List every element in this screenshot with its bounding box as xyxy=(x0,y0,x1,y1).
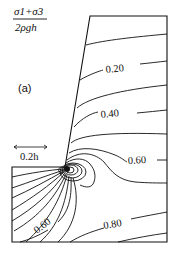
domain-outline xyxy=(12,16,167,242)
scale-bar-label: 0.2h xyxy=(20,151,39,162)
quantity-label: σ1+σ3 2ρgh xyxy=(13,5,47,33)
contour-label-0-40: 0.40 xyxy=(100,107,119,120)
fraction-denominator: 2ρgh xyxy=(15,21,37,33)
contour-label-0-60-left: 0.60 xyxy=(31,216,52,236)
contour-label-0-20: 0.20 xyxy=(105,62,124,75)
singular-point xyxy=(64,166,70,172)
contour-label-0-80: 0.80 xyxy=(102,217,122,231)
contour-lines xyxy=(12,34,167,242)
fraction-numerator: σ1+σ3 xyxy=(14,5,44,17)
stress-contour-diagram: σ1+σ3 2ρgh (a) 0.2h xyxy=(0,0,178,255)
contour-label-0-60-right: 0.60 xyxy=(128,154,147,166)
scale-bar: 0.2h xyxy=(14,145,47,162)
panel-label: (a) xyxy=(18,82,31,94)
